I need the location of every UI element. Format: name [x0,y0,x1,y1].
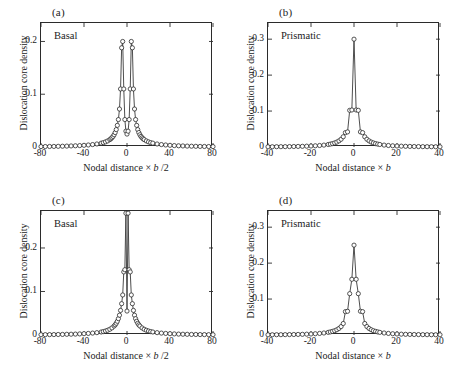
panel-b-curve [268,23,440,147]
x-tick-label: 0 [351,148,356,158]
panel-a: (a) Dislocation core density Basal-80-40… [0,0,227,188]
figure-dislocation-core-density: (a) Dislocation core density Basal-80-40… [0,0,454,376]
x-tick-label: 20 [391,148,401,158]
panel-c-ylabel: Dislocation core density [18,211,29,331]
x-tick-label: 40 [164,336,174,346]
x-tick-label: -40 [77,336,90,346]
y-tick-label: 0.1 [227,105,264,115]
y-tick-label: 0.1 [0,285,37,295]
panel-c-xlabel: Nodal distance × b /2 [40,350,212,361]
x-tick-label: 0 [124,336,129,346]
panel-c-ylabel-wrap: Dislocation core density [8,208,24,333]
y-tick-label: 0 [227,141,264,151]
x-tick-label: 0 [124,148,129,158]
panel-d-xlabel: Nodal distance × b [267,350,439,361]
y-tick-label: 0.2 [0,242,37,252]
x-tick-label: 40 [164,148,174,158]
x-tick-label: -20 [304,336,317,346]
y-tick-label: 0 [0,329,37,339]
x-tick-label: 40 [434,148,444,158]
y-tick-label: 0.1 [227,293,264,303]
y-tick-label: 0.1 [0,88,37,98]
panel-a-curve [41,23,213,147]
y-tick-label: 0 [0,141,37,151]
panel-c-curve [41,211,213,335]
y-tick-label: 0.2 [0,35,37,45]
panel-c-tag: (c) [52,194,65,206]
x-tick-label: 40 [434,336,444,346]
x-tick-label: 80 [207,336,217,346]
y-tick-label: 0.3 [227,33,264,43]
panel-d-inset-label: Prismatic [281,218,321,229]
x-tick-label: 80 [207,148,217,158]
panel-c: (c) Dislocation core density Basal-80-40… [0,188,227,376]
x-tick-label: 20 [391,336,401,346]
panel-b: (b) Dislocation core density Prismatic-4… [227,0,454,188]
panel-a-xlabel: Nodal distance × b /2 [40,162,212,173]
y-tick-label: 0 [227,329,264,339]
x-tick-label: 0 [351,336,356,346]
panel-a-inset-label: Basal [54,30,77,41]
x-tick-label: -40 [77,148,90,158]
panel-b-xlabel: Nodal distance × b [267,162,439,173]
panel-d-curve [268,211,440,335]
y-tick-label: 0.3 [227,221,264,231]
panel-b-inset-label: Prismatic [281,30,321,41]
panel-b-tag: (b) [279,6,292,18]
x-tick-label: -20 [304,148,317,158]
y-tick-label: 0.2 [227,257,264,267]
figure-caption-partial [0,366,454,376]
panel-d-tag: (d) [279,194,292,206]
panel-d: (d) Dislocation core density Prismatic-4… [227,188,454,376]
panel-a-tag: (a) [52,6,65,18]
y-tick-label: 0.2 [227,69,264,79]
panel-c-inset-label: Basal [54,218,77,229]
